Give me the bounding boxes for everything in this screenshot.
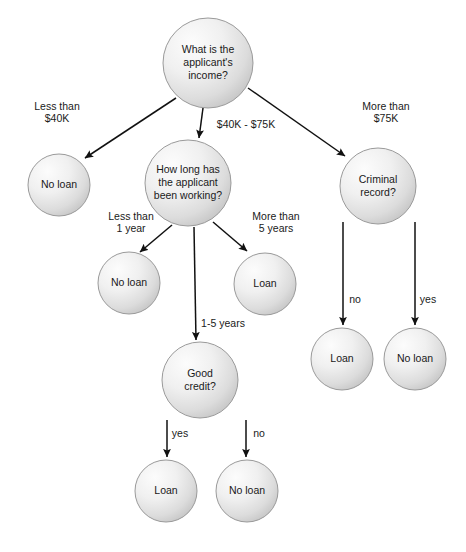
node-label-loan_goodcredit: Loan (154, 484, 178, 496)
node-criminal[interactable]: Criminalrecord? (340, 148, 416, 224)
node-noloan_record[interactable]: No loan (384, 328, 446, 390)
node-label-working: How long hasthe applicantbeen working? (154, 163, 222, 201)
node-loan_norecord[interactable]: Loan (311, 328, 373, 390)
node-label-credit: Goodcredit? (184, 366, 216, 391)
nodes-layer: What is theapplicant'sincome?No loanHow … (28, 18, 446, 522)
node-income[interactable]: What is theapplicant'sincome? (163, 18, 253, 108)
edge-label-e-credit-yes: yes (172, 427, 188, 439)
node-loan_goodcredit[interactable]: Loan (135, 460, 197, 522)
node-label-criminal: Criminalrecord? (359, 172, 398, 197)
node-label-income: What is theapplicant'sincome? (182, 43, 235, 81)
decision-tree-diagram: What is theapplicant'sincome?No loanHow … (0, 0, 466, 552)
edge-label-e-working-1to5: 1-5 years (201, 317, 245, 329)
edge-label-e-income-mid: $40K - $75K (217, 118, 275, 130)
node-label-noloan_short: No loan (111, 276, 147, 288)
node-loan_long[interactable]: Loan (234, 253, 296, 315)
node-label-noloan_record: No loan (397, 352, 433, 364)
edge-label-e-criminal-no: no (349, 293, 361, 305)
edge-label-e-income-lt40k: Less than$40K (34, 100, 80, 124)
node-credit[interactable]: Goodcredit? (162, 342, 238, 418)
node-label-loan_long: Loan (253, 277, 277, 289)
node-label-noloan_badcredit: No loan (229, 484, 265, 496)
node-noloan_short[interactable]: No loan (98, 252, 160, 314)
edge-e-income-mid (199, 108, 203, 138)
node-label-noloan_lowincome: No loan (41, 178, 77, 190)
edge-label-e-criminal-yes: yes (420, 293, 436, 305)
tree-canvas: What is theapplicant'sincome?No loanHow … (0, 0, 466, 552)
edge-label-e-credit-no: no (253, 427, 265, 439)
edge-label-e-income-gt75k: More than$75K (362, 100, 409, 124)
edge-label-e-working-lt1y: Less than1 year (108, 210, 154, 234)
node-working[interactable]: How long hasthe applicantbeen working? (145, 140, 231, 226)
edge-e-working-gt5y (213, 222, 247, 251)
node-label-loan_norecord: Loan (330, 352, 354, 364)
edge-label-e-working-gt5y: More than5 years (252, 210, 299, 234)
edge-e-working-1to5 (194, 227, 196, 340)
node-noloan_lowincome[interactable]: No loan (28, 154, 90, 216)
node-noloan_badcredit[interactable]: No loan (216, 460, 278, 522)
